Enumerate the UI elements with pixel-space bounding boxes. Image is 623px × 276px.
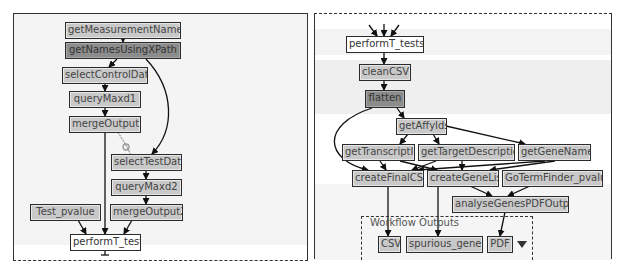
node-createGeneList[interactable]: createGeneList — [427, 170, 499, 187]
node-selectTestData[interactable]: selectTestData — [111, 154, 182, 171]
node-getGeneName[interactable]: getGeneName — [518, 144, 591, 161]
node-queryMaxd1[interactable]: queryMaxd1 — [69, 91, 141, 108]
collapse-triangle-icon[interactable] — [517, 241, 527, 248]
output-PDF[interactable]: PDF — [487, 236, 513, 253]
node-getAffyIds[interactable]: getAffyIds — [396, 118, 447, 135]
output-spurious_genes[interactable]: spurious_genes — [406, 236, 483, 253]
node-queryMaxd2[interactable]: queryMaxd2 — [111, 179, 182, 196]
node-selectControlData[interactable]: selectControlData — [62, 67, 148, 84]
node-flatten[interactable]: flatten — [365, 90, 405, 108]
node-getNamesUsingXPath[interactable]: getNamesUsingXPath — [65, 42, 181, 59]
node-mergeOutput1[interactable]: mergeOutput1 — [69, 116, 141, 133]
node-cleanCSV[interactable]: cleanCSV — [359, 64, 411, 81]
output-CSV[interactable]: CSV — [378, 236, 401, 253]
node-Test_pvalue[interactable]: Test_pvalue — [30, 204, 101, 221]
node-analyseGenesPDFOutput[interactable]: analyseGenesPDFOutput — [452, 196, 569, 213]
node-getMeasurementNames[interactable]: getMeasurementNames — [65, 22, 181, 39]
node-performT_tests-right[interactable]: performT_tests — [346, 36, 424, 53]
node-mergeOutput2[interactable]: mergeOutput2 — [110, 204, 183, 221]
node-performT_tests[interactable]: performT_tests — [70, 234, 141, 251]
node-getTargetDescription[interactable]: getTargetDescription — [418, 144, 515, 161]
workflow-outputs-label: Workflow Outputs — [370, 217, 459, 228]
node-getTranscriptId[interactable]: getTranscriptId — [342, 144, 415, 161]
node-GoTermFinder_pvalue[interactable]: GoTermFinder_pvalue — [502, 170, 603, 187]
node-createFinalCSV[interactable]: createFinalCSV — [352, 170, 424, 187]
